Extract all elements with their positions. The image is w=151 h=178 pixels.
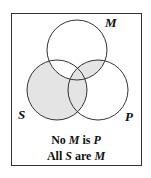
statement-2: All S are M bbox=[47, 149, 105, 163]
statement-1: No M is P bbox=[51, 133, 101, 147]
venn-diagram: M S P No M is P All S are M bbox=[0, 0, 151, 178]
label-p: P bbox=[125, 109, 134, 124]
label-m: M bbox=[104, 15, 117, 30]
label-s: S bbox=[18, 107, 25, 122]
